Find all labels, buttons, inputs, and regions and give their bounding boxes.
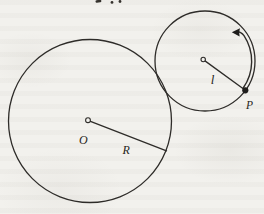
rotation-arrowhead-icon [232, 28, 240, 36]
rotation-arrow-arc [236, 31, 251, 88]
cropped-text-remnant [95, 0, 121, 4]
small-circle-center-marker [201, 57, 205, 61]
label-big-center: O [79, 133, 88, 147]
label-small-radius: l [211, 72, 215, 87]
point-p-dot [242, 87, 248, 93]
label-big-radius: R [122, 143, 131, 157]
label-point-p: P [245, 99, 253, 111]
scanned-figure-page: O R l P [0, 0, 264, 214]
two-circles-diagram: O R l P [0, 0, 264, 214]
large-circle-center-marker [86, 118, 91, 123]
small-circle-radius-line [204, 60, 245, 90]
